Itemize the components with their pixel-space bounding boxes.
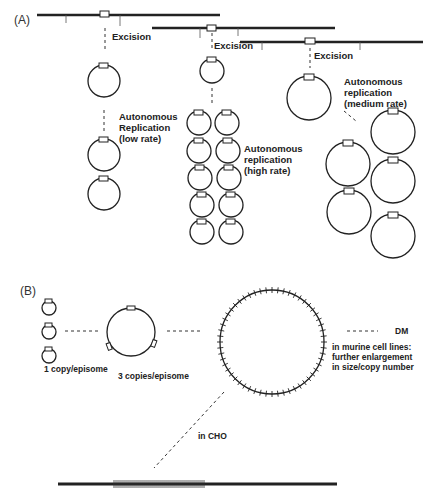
chromosome-line-1 (37, 11, 220, 26)
excision-label-1: Excision (112, 31, 151, 42)
high-rate-label-line2: replication (244, 154, 292, 165)
diagram-stage: (A) Excision Excision Excision Autonomou… (0, 0, 433, 497)
chromosome-line-3 (240, 38, 423, 50)
cho-label: in CHO (198, 431, 227, 441)
three-copies-label: 3 copies/episome (118, 371, 189, 381)
low-rate-label-line1: Autonomous (119, 111, 178, 122)
low-rate-label-line2: Replication (119, 122, 170, 133)
high-rate-label-line1: Autonomous (244, 143, 303, 154)
dm-label: DM (395, 326, 408, 336)
cho-chromosome (58, 480, 337, 488)
episome-diagram: (A) Excision Excision Excision Autonomou… (0, 0, 433, 497)
low-rate-label-line3: (low rate) (119, 133, 161, 144)
high-rate-episomes (187, 57, 243, 244)
one-copy-label: 1 copy/episome (44, 364, 108, 374)
double-minute-circle (217, 287, 327, 397)
low-rate-episomes (88, 63, 120, 210)
high-rate-label-line3: (high rate) (244, 165, 290, 176)
panel-b-label: (B) (20, 284, 36, 298)
medium-rate-label-line2: replication (344, 87, 392, 98)
excision-label-3: Excision (314, 50, 353, 61)
chromosome-line-2 (152, 25, 335, 38)
murine-label-line1: in murine cell lines: (332, 342, 412, 352)
panel-a-label: (A) (14, 13, 30, 27)
three-copy-episome (106, 306, 157, 356)
medium-rate-label-line1: Autonomous (344, 76, 403, 87)
cho-connector-dash (154, 392, 224, 468)
murine-label-line2: further enlargement (332, 352, 412, 362)
murine-label-line3: in size/copy number (332, 362, 414, 372)
medium-rate-label-line3: (medium rate) (344, 98, 407, 109)
single-copy-episomes (42, 299, 56, 363)
